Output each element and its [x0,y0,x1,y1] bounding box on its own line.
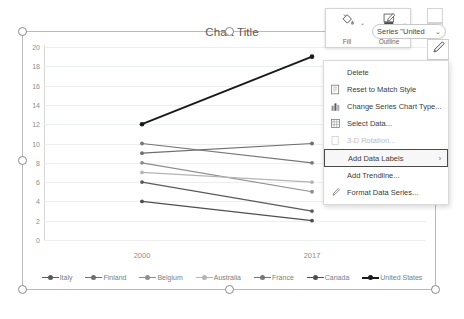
resize-handle-bottom-center[interactable] [225,285,234,294]
menu-item-label: 3-D Rotation... [347,136,395,145]
menu-item-label: Format Data Series... [347,188,418,197]
resize-handle-bottom-left[interactable] [18,285,27,294]
menu-item-label: Add Data Labels [348,154,403,163]
series-select-value: Series "United [377,27,435,36]
resize-handle-top-center[interactable] [225,27,234,36]
reset-style-icon [329,84,341,96]
resize-handle-bottom-right[interactable] [431,285,440,294]
resize-handle-middle-left[interactable] [18,156,27,165]
menu-item-label: Select Data... [347,119,392,128]
outline-label: Outline [379,38,400,45]
menu-item-label: Change Series Chart Type... [347,102,442,111]
series-select-dropdown[interactable]: Series "United ⌄ [372,24,446,39]
context-menu[interactable]: DeleteReset to Match StyleChange Series … [323,60,449,205]
format-brush-icon [329,187,341,199]
menu-item-select-data[interactable]: Select Data... [324,115,448,132]
menu-item-reset-to-match-style[interactable]: Reset to Match Style [324,81,448,98]
fill-bucket-icon [340,12,355,31]
chart-type-icon [329,101,341,113]
select-data-icon [329,118,341,130]
menu-item-add-data-labels[interactable]: Add Data Labels› [324,149,448,167]
menu-item-delete[interactable]: Delete [324,64,448,81]
toolbar-extra-button-top[interactable] [427,8,443,23]
fill-button[interactable]: ⌄ Fill [326,9,368,47]
chevron-down-icon[interactable]: ⌄ [435,28,441,36]
fill-label: Fill [343,38,351,45]
menu-item-change-series-chart-type[interactable]: Change Series Chart Type... [324,98,448,115]
fill-caret-icon[interactable]: ⌄ [360,19,365,26]
format-brush-icon [430,40,446,60]
menu-item-label: Reset to Match Style [347,85,416,94]
menu-item-3-d-rotation: 3-D Rotation... [324,132,448,149]
menu-item-label: Add Trendline... [347,171,400,180]
menu-item-label: Delete [347,68,369,77]
submenu-arrow-icon: › [439,155,441,162]
rotation-3d-icon [329,135,341,147]
resize-handle-top-left[interactable] [18,27,27,36]
format-painter-button[interactable] [427,39,449,60]
menu-item-add-trendline[interactable]: Add Trendline... [324,167,448,184]
menu-item-format-data-series[interactable]: Format Data Series... [324,184,448,201]
